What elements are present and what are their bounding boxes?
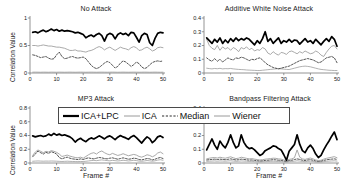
x-tick-label: 0 [196,76,212,82]
y-tick-label: 0.1 [176,56,201,62]
series-line-wiener [33,160,163,162]
y-tick-label: 0.8 [2,105,27,111]
x-tick-label: 30 [276,166,292,172]
series-line-ica-lpc [207,132,337,160]
x-tick-label: 50 [329,76,345,82]
x-tick-label: 10 [49,166,65,172]
legend: ICA+LPC ICA Median Wiener [58,107,290,124]
y-tick-label: 0 [176,160,201,166]
series-line-median [33,151,163,160]
panel-awgn-attack: Additive White Noise Attack 00.10.20.30.… [174,0,348,95]
series-line-ica [33,150,163,158]
y-tick-label: 0.4 [176,15,201,21]
y-tick-label: 0.2 [2,146,27,152]
legend-swatch-ica [124,112,140,120]
series-line-median [207,57,337,69]
y-tick-label: 0.2 [176,132,201,138]
series-line-ica-lpc [33,133,163,143]
x-tick-label: 50 [155,166,171,172]
legend-item-median: Median [162,111,215,121]
legend-label-median: Median [180,111,210,121]
series-line-ica [33,45,163,52]
series-line-ica-lpc [33,29,163,46]
x-tick-label: 40 [128,76,144,82]
legend-item-ica-lpc: ICA+LPC [63,111,124,121]
legend-swatch-wiener [214,112,230,120]
x-tick-label: 20 [75,76,91,82]
x-tick-label: 30 [102,166,118,172]
legend-item-ica: ICA [124,111,162,121]
legend-swatch-ica-lpc [63,112,79,120]
y-tick-label: 0.3 [176,29,201,35]
y-tick-label: 0.4 [2,132,27,138]
legend-label-wiener: Wiener [232,111,261,121]
legend-label-ica: ICA [142,111,157,121]
y-tick-label: 1 [2,15,27,21]
x-tick-label: 20 [249,76,265,82]
x-tick-label: 50 [155,76,171,82]
x-tick-label: 10 [49,76,65,82]
x-tick-label: 20 [249,166,265,172]
y-tick-label: 0 [2,160,27,166]
x-tick-label: 20 [75,166,91,172]
series-line-ica-lpc [207,32,337,46]
x-tick-label: 10 [223,76,239,82]
legend-item-wiener: Wiener [214,111,266,121]
y-tick-label: 0.1 [176,146,201,152]
x-tick-label: 40 [128,166,144,172]
y-tick-label: 0.6 [2,119,27,125]
y-tick-label: 0 [176,70,201,76]
x-tick-label: 0 [22,166,38,172]
x-tick-label: 0 [196,166,212,172]
x-tick-label: 40 [302,166,318,172]
x-tick-label: 40 [302,76,318,82]
x-tick-label: 30 [102,76,118,82]
legend-label-ica-lpc: ICA+LPC [81,111,119,121]
x-tick-label: 0 [22,76,38,82]
legend-swatch-median [162,112,178,120]
y-tick-label: 0.5 [2,42,27,48]
x-tick-label: 50 [329,166,345,172]
y-tick-label: 0 [2,70,27,76]
x-tick-label: 10 [223,166,239,172]
x-tick-label: 30 [276,76,292,82]
figure-container: No Attack Correlation Value 00.510102030… [0,0,348,190]
y-tick-label: 0.2 [176,42,201,48]
panel-no-attack: No Attack Correlation Value 00.510102030… [0,0,174,95]
series-line-median [33,52,163,69]
